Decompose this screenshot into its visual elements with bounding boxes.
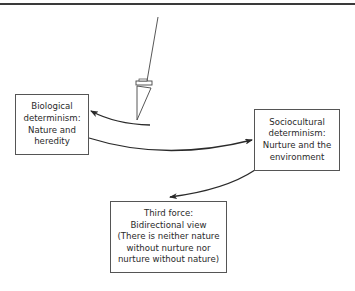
arrow-sociocultural-to-third-force: [170, 170, 255, 197]
pendulum-icon: [136, 17, 158, 120]
node-text-line: Third force:: [118, 208, 220, 220]
node-text-line: Bidirectional view: [118, 220, 220, 232]
node-biological-determinism: Biological determinism: Nature and hered…: [15, 94, 89, 155]
node-text-line: Nurture and the: [263, 140, 332, 152]
node-sociocultural-determinism: Sociocultural determinism: Nurture and t…: [254, 109, 340, 171]
node-text-line: Nature and: [23, 125, 80, 137]
arrow-biological-to-sociocultural: [89, 138, 252, 151]
node-text-line: determinism:: [23, 113, 80, 125]
node-text-line: heredity: [23, 136, 80, 148]
node-text-line: without nurture nor: [118, 243, 220, 255]
node-text-line: determinism:: [263, 128, 332, 140]
node-text-line: nurture without nature): [118, 254, 220, 266]
arrow-pendulum-to-biological: [91, 111, 150, 125]
node-text-line: environment: [263, 152, 332, 164]
node-text-line: Biological: [23, 101, 80, 113]
node-third-force: Third force: Bidirectional view (There i…: [110, 201, 227, 273]
node-text-line: Sociocultural: [263, 117, 332, 129]
node-text-line: (There is neither nature: [118, 231, 220, 243]
